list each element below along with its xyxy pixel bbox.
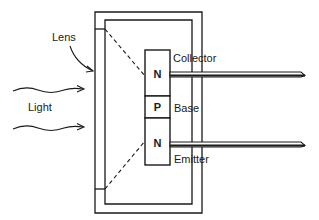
collector-label: Collector [173,52,217,64]
emitter-label: Emitter [174,153,209,165]
light-ray-arrow-icon [13,86,84,93]
focus-lines [105,29,145,189]
emitter-lead [170,142,305,147]
light-ray-arrow-icon [13,124,84,131]
phototransistor-diagram: N P N Collector Base Emitter Lens Light [0,0,319,220]
lens-pointer-arrow-icon [70,46,93,72]
lens-element [95,29,105,189]
light-label: Light [28,101,52,113]
emitter-region-letter: N [154,137,162,149]
lens-label: Lens [52,31,76,43]
base-label: Base [174,102,199,114]
collector-region-letter: N [154,68,162,80]
collector-lead [170,72,305,77]
base-region-letter: P [154,101,161,113]
